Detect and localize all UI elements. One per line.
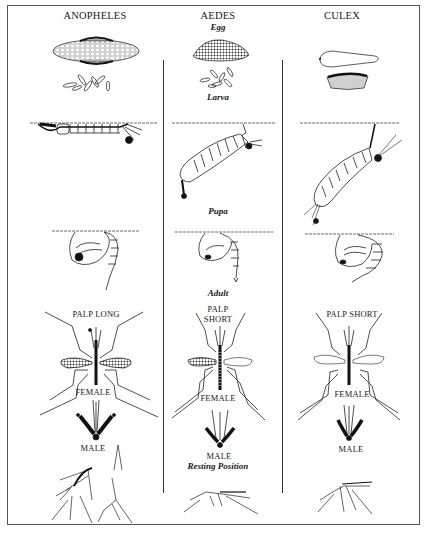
- illustrations: [0, 0, 428, 536]
- culex-egg-icon: [319, 51, 378, 67]
- culex-resting-icon: [318, 482, 372, 514]
- anopheles-egg-raft-icon: [63, 74, 110, 92]
- anopheles-male-head-icon: [77, 400, 116, 440]
- culex-larva-icon: [300, 123, 402, 225]
- aedes-pupa-icon: [175, 232, 273, 282]
- anopheles-pupa-icon: [52, 231, 140, 290]
- culex-male-head-icon: [338, 405, 362, 441]
- anopheles-larva-icon: [30, 123, 158, 144]
- aedes-resting-icon: [184, 492, 258, 514]
- anopheles-egg-icon: [53, 38, 139, 65]
- aedes-eggs-scattered-icon: [200, 67, 234, 88]
- anopheles-resting-icon: [52, 445, 132, 523]
- aedes-larva-icon: [172, 123, 275, 199]
- culex-egg-raft-icon: [327, 74, 368, 90]
- aedes-egg-icon: [193, 40, 249, 61]
- culex-female-icon: [298, 313, 400, 420]
- aedes-male-head-icon: [206, 410, 234, 448]
- culex-pupa-icon: [305, 234, 394, 282]
- aedes-female-icon: [172, 313, 265, 420]
